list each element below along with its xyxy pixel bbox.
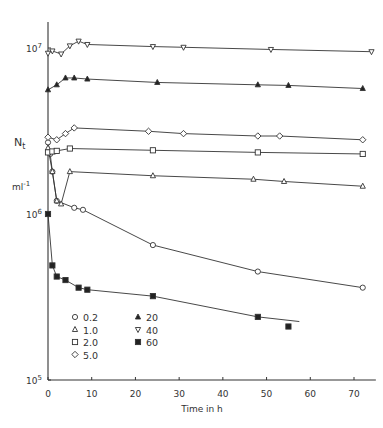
- series-line: [48, 149, 363, 154]
- series-1.0: [45, 145, 365, 206]
- legend-item: 1.0: [72, 325, 98, 336]
- marker-diamond: [145, 128, 151, 134]
- marker-triangle-down: [135, 328, 140, 333]
- series-line: [48, 148, 363, 204]
- marker-square: [67, 146, 72, 151]
- marker-square: [360, 151, 365, 156]
- legend-label: 0.2: [83, 312, 98, 323]
- marker-triangle-up: [63, 75, 68, 80]
- marker-square: [255, 314, 260, 319]
- marker-triangle-down: [150, 45, 155, 50]
- legend-label: 5.0: [83, 350, 98, 361]
- marker-square: [150, 294, 155, 299]
- marker-triangle-down: [369, 50, 374, 55]
- legend-item: 5.0: [72, 350, 98, 361]
- x-axis-label: Time in h: [180, 404, 223, 414]
- legend-item: 40: [135, 325, 158, 336]
- marker-triangle-up: [286, 82, 291, 87]
- marker-triangle-down: [268, 47, 273, 52]
- marker-square: [85, 287, 90, 292]
- series-40: [45, 39, 374, 57]
- marker-triangle-up: [255, 82, 260, 87]
- marker-diamond: [360, 137, 366, 143]
- chart: 010203040506070105106107 0.21.02.05.0204…: [0, 0, 383, 428]
- series-2.0: [45, 146, 365, 157]
- marker-circle: [150, 242, 155, 247]
- marker-square: [54, 148, 59, 153]
- marker-circle: [255, 269, 260, 274]
- x-tick-label: 60: [305, 389, 317, 399]
- x-tick-label: 30: [173, 389, 185, 399]
- marker-triangle-up: [135, 314, 140, 319]
- marker-square: [286, 324, 291, 329]
- marker-triangle-down: [181, 45, 186, 50]
- y-tick-label: 107: [26, 42, 42, 54]
- marker-triangle-up: [72, 327, 77, 332]
- x-tick-label: 40: [217, 389, 229, 399]
- legend-label: 1.0: [83, 325, 98, 336]
- x-tick-label: 50: [261, 389, 273, 399]
- marker-diamond: [62, 130, 68, 136]
- marker-diamond: [71, 125, 77, 131]
- series-line: [48, 214, 299, 322]
- marker-diamond: [276, 133, 282, 139]
- marker-circle: [80, 207, 85, 212]
- y-tick-label: 105: [26, 374, 42, 386]
- legend-item: 60: [135, 337, 158, 348]
- marker-diamond: [255, 133, 261, 139]
- marker-square: [150, 148, 155, 153]
- marker-square: [50, 263, 55, 268]
- x-tick-label: 70: [348, 389, 360, 399]
- legend-item: 20: [135, 312, 158, 323]
- marker-triangle-down: [45, 51, 50, 56]
- marker-diamond: [72, 351, 78, 357]
- marker-triangle-up: [67, 169, 72, 174]
- x-tick-label: 0: [45, 389, 51, 399]
- marker-square: [76, 285, 81, 290]
- marker-triangle-up: [72, 75, 77, 80]
- legend-label: 40: [146, 325, 158, 336]
- series-0.2: [45, 140, 365, 290]
- series-line: [48, 128, 363, 140]
- x-tick-label: 10: [86, 389, 98, 399]
- series-5.0: [45, 125, 366, 143]
- series-line: [48, 41, 371, 54]
- y-axis-label: Nt: [14, 136, 25, 151]
- y-axis-unit: ml-1: [12, 180, 30, 192]
- legend-label: 60: [146, 337, 158, 348]
- x-tick-label: 20: [130, 389, 142, 399]
- legend-item: 2.0: [72, 337, 98, 348]
- y-tick-label: 106: [26, 208, 42, 220]
- series-line: [48, 142, 363, 287]
- marker-square: [45, 211, 50, 216]
- marker-triangle-up: [45, 87, 50, 92]
- marker-square: [63, 277, 68, 282]
- marker-triangle-up: [54, 82, 59, 87]
- marker-circle: [72, 205, 77, 210]
- legend-item: 0.2: [72, 312, 98, 323]
- series-20: [45, 75, 365, 92]
- marker-diamond: [180, 130, 186, 136]
- legend-label: 2.0: [83, 337, 98, 348]
- marker-square: [255, 150, 260, 155]
- series-layer: [45, 39, 374, 329]
- marker-square: [54, 274, 59, 279]
- axis-labels: Nt ml-1 Time in h: [12, 136, 223, 414]
- marker-square: [135, 339, 140, 344]
- marker-triangle-down: [59, 52, 64, 57]
- series-line: [48, 78, 363, 90]
- marker-circle: [360, 285, 365, 290]
- legend-label: 20: [146, 312, 158, 323]
- marker-circle: [72, 314, 77, 319]
- marker-square: [72, 339, 77, 344]
- marker-diamond: [45, 134, 51, 140]
- legend: 0.21.02.05.0204060: [72, 312, 158, 361]
- marker-diamond: [54, 137, 60, 143]
